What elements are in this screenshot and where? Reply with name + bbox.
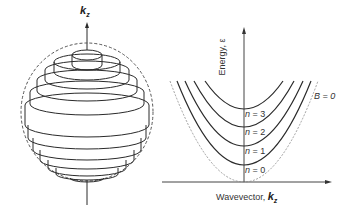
energy-axis-label: Energy, ε	[217, 39, 227, 76]
level-label-n1: n = 1	[245, 146, 265, 156]
level-label-n3: n = 3	[245, 109, 265, 119]
b-zero-label: B = 0	[314, 91, 335, 101]
fermi-sphere-figure	[21, 22, 153, 205]
wavevector-axis-label: Wavevector, kz	[216, 190, 277, 204]
kz-arrow-icon	[85, 22, 89, 28]
diagram-canvas	[0, 0, 355, 215]
wavevector-arrow-icon	[325, 180, 332, 184]
kz-axis-label: kz	[80, 4, 90, 18]
energy-arrow-icon	[242, 27, 246, 34]
energy-diagram	[162, 27, 332, 184]
level-label-n2: n = 2	[245, 127, 265, 137]
level-label-n0: n = 0	[245, 165, 265, 175]
